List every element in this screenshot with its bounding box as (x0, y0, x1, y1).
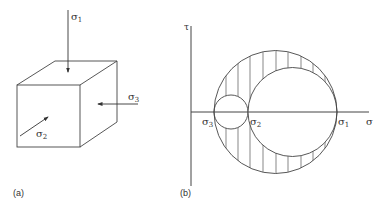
caption-a: (a) (13, 188, 24, 198)
sigma-axis-label: σ (366, 116, 373, 127)
panel-b-mohr: τ σ σ3 σ2 σ1 (184, 22, 373, 186)
sigma1-label-b: σ1 (338, 116, 349, 129)
sigma1-label-a: σ1 (71, 11, 82, 24)
caption-b: (b) (180, 188, 191, 198)
tau-axis-label: τ (184, 22, 189, 32)
figure: σ1 σ3 σ2 (a) τ σ σ3 σ2 σ1 (b) (0, 0, 383, 212)
sigma2-label-a: σ2 (36, 128, 47, 141)
sigma3-label-a: σ3 (128, 91, 139, 104)
cube-front-face (17, 85, 80, 147)
sigma3-label-b: σ3 (202, 116, 213, 129)
cube-top-face (17, 61, 117, 85)
